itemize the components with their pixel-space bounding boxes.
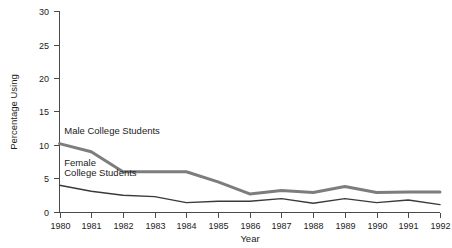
x-axis-title: Year xyxy=(240,233,259,244)
x-tick-label: 1984 xyxy=(176,221,196,231)
x-tick-label: 1991 xyxy=(398,221,418,231)
series-label-male-college-students: Male College Students xyxy=(64,125,160,136)
y-tick-label: 5 xyxy=(44,174,49,184)
y-axis-title: Percentage Using xyxy=(8,74,19,150)
x-tick-label: 1988 xyxy=(303,221,323,231)
x-tick-marks xyxy=(61,213,441,219)
x-tick-label: 1982 xyxy=(113,221,133,231)
x-tick-label: 1985 xyxy=(208,221,228,231)
x-tick-label: 1992 xyxy=(430,221,450,231)
y-tick-labels: 30 25 20 15 10 5 0 xyxy=(39,7,49,218)
y-tick-label: 10 xyxy=(39,141,49,151)
y-tick-label: 30 xyxy=(39,7,49,17)
x-tick-label: 1983 xyxy=(145,221,165,231)
chart-figure: 30 25 20 15 10 5 0 Percentage Using 1980… xyxy=(0,0,452,248)
y-tick-label: 0 xyxy=(44,208,49,218)
y-tick-label: 15 xyxy=(39,107,49,117)
y-tick-label: 25 xyxy=(39,41,49,51)
y-tick-label: 20 xyxy=(39,74,49,84)
x-tick-label: 1986 xyxy=(240,221,260,231)
line-chart-plot: 30 25 20 15 10 5 0 Percentage Using 1980… xyxy=(0,0,452,248)
series-label-female-line2: College Students xyxy=(64,167,137,178)
x-tick-labels: 1980198119821983198419851986198719881989… xyxy=(50,221,450,231)
x-tick-label: 1987 xyxy=(271,221,291,231)
x-tick-label: 1990 xyxy=(367,221,387,231)
x-tick-label: 1981 xyxy=(81,221,101,231)
y-tick-marks xyxy=(54,12,60,213)
x-tick-label: 1989 xyxy=(335,221,355,231)
axis-lines xyxy=(60,11,441,213)
x-tick-label: 1980 xyxy=(50,221,70,231)
series-label-female-line1: Female xyxy=(64,157,96,168)
